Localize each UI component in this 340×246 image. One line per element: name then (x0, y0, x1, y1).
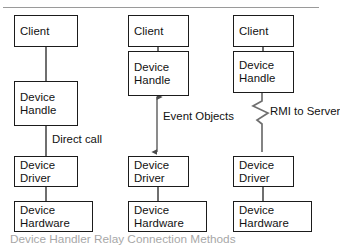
node-label-line: Device (134, 204, 169, 217)
node-device-driver-col3[interactable]: Device Driver (233, 156, 294, 187)
node-client-col3[interactable]: Client (233, 15, 294, 47)
node-label-line: Device (239, 159, 274, 172)
edge-label-line: Server (307, 105, 340, 117)
node-device-hardware-col1[interactable]: Device Hardware (14, 201, 93, 232)
node-label-line: Handle (134, 74, 170, 87)
node-label-line: Device (134, 159, 169, 172)
node-label-line: Hardware (239, 217, 289, 230)
node-label-line: Driver (134, 172, 165, 185)
edge-label-line: Event (163, 110, 192, 122)
edge-label-line: Objects (195, 110, 234, 122)
node-client-col2[interactable]: Client (128, 15, 189, 47)
node-label-line: Driver (20, 172, 51, 185)
edge-label-direct-call: Direct call (52, 133, 102, 146)
node-label-line: Device (20, 159, 55, 172)
node-label-line: Device (20, 204, 55, 217)
node-label-line: Hardware (134, 217, 184, 230)
node-label-line: Device (20, 91, 55, 104)
node-label-line: Client (20, 25, 49, 38)
node-label-line: Device (239, 59, 274, 72)
node-label-line: Device (134, 61, 169, 74)
node-label-line: Client (239, 25, 268, 38)
node-device-hardware-col2[interactable]: Device Hardware (128, 201, 207, 232)
node-label-line: Handle (20, 104, 56, 117)
node-label-line: Driver (239, 172, 270, 185)
node-device-driver-col2[interactable]: Device Driver (128, 156, 189, 187)
edge-label-rmi-to-server: RMI to Server (270, 105, 340, 118)
node-device-handle-col3[interactable]: Device Handle (233, 51, 294, 93)
node-label-line: Handle (239, 72, 275, 85)
edge-label-line: RMI to (270, 105, 304, 117)
connector-rmi-zigzag (253, 92, 268, 152)
node-label-line: Hardware (20, 217, 70, 230)
node-device-handle-col1[interactable]: Device Handle (14, 81, 78, 126)
node-label-line: Device (239, 204, 274, 217)
node-device-handle-col2[interactable]: Device Handle (128, 51, 189, 96)
node-client-col1[interactable]: Client (14, 15, 78, 47)
edge-label-event-objects: Event Objects (163, 110, 234, 123)
node-label-line: Client (134, 25, 163, 38)
node-device-driver-col1[interactable]: Device Driver (14, 156, 78, 187)
node-device-hardware-col3[interactable]: Device Hardware (233, 201, 312, 232)
